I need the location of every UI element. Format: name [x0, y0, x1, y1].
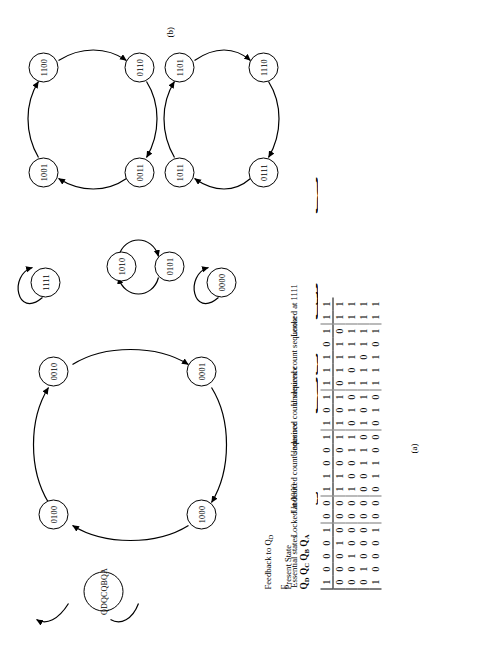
cell-qc: 1	[345, 403, 357, 416]
cell-qc: 1	[345, 337, 357, 350]
cell-qc: 1	[345, 443, 357, 456]
state-node-0001: 0001	[186, 356, 216, 386]
state-node-1101: 1101	[164, 52, 194, 82]
header-feedback: Feedback to QD	[262, 534, 272, 589]
cell-qb: 0	[357, 549, 369, 562]
cell-qc: 0	[345, 496, 357, 510]
cell-qd: 1	[333, 430, 346, 444]
cell-qc: 1	[345, 297, 357, 310]
rotated-sheet: QDQCQBQA 0100 0010 0001 1000 1111 0000 1…	[0, 0, 499, 657]
cell-f: 1	[320, 350, 333, 363]
cell-qa: 0	[369, 536, 381, 549]
cell-f: 1	[320, 482, 333, 496]
cell-f: 0	[320, 536, 333, 549]
cell-qb: 0	[357, 469, 369, 482]
state-node-legend: QDQCQBQA	[83, 571, 123, 611]
cell-qb: 0	[357, 496, 369, 510]
cell-qb: 1	[357, 562, 369, 575]
table-row-qb: 0 1 0 0 0 0 0 0 0 1 1 0 1	[357, 297, 369, 589]
cell-qa: 1	[369, 350, 381, 363]
cell-f: 1	[320, 376, 333, 390]
cell-qb: 0	[357, 350, 369, 363]
cell-qb: 1	[357, 310, 369, 324]
cell-qa: 0	[369, 416, 381, 430]
state-node-1000: 1000	[186, 499, 216, 529]
figure-page: QDQCQBQA 0100 0010 0001 1000 1111 0000 1…	[0, 0, 499, 657]
cell-qc: 0	[345, 363, 357, 376]
cell-qa: 0	[369, 562, 381, 575]
cell-qa: 1	[369, 456, 381, 469]
cell-f: 1	[320, 390, 333, 404]
cell-qd: 1	[333, 310, 346, 324]
cell-qd: 0	[333, 456, 346, 469]
cell-f: 1	[320, 575, 333, 589]
state-node-1011: 1011	[164, 157, 194, 187]
cell-qb: 1	[357, 324, 369, 338]
cell-qb: 0	[357, 403, 369, 416]
cell-qa: 1	[369, 324, 381, 338]
cell-f: 0	[320, 456, 333, 469]
state-node-0110: 0110	[124, 52, 154, 82]
cell-qc: 0	[345, 416, 357, 430]
cell-qa: 1	[369, 523, 381, 537]
state-node-1111: 1111	[30, 267, 60, 297]
cell-f: 0	[320, 562, 333, 575]
state-node-0100: 0100	[38, 499, 68, 529]
cell-f: 1	[320, 469, 333, 482]
cell-qb: 1	[357, 337, 369, 350]
cell-qa: 1	[369, 575, 381, 589]
cell-qa: 1	[369, 403, 381, 416]
cell-qc: 1	[345, 350, 357, 363]
cell-qc: 0	[345, 523, 357, 537]
cell-f: 1	[320, 523, 333, 537]
cell-qa: 1	[369, 363, 381, 376]
state-table-grid: 1 0 0 0 1 0 0 1 1 0 0	[320, 297, 381, 589]
cell-qa: 0	[369, 482, 381, 496]
cell-qc: 0	[345, 509, 357, 523]
state-node-1100: 1100	[28, 52, 58, 82]
cell-qd: 0	[333, 509, 346, 523]
cell-qd: 0	[333, 496, 346, 510]
cell-f: 1	[320, 363, 333, 376]
cell-qa: 0	[369, 443, 381, 456]
cell-qb: 0	[357, 509, 369, 523]
state-node-0000: 0000	[206, 267, 236, 297]
cell-qd: 0	[333, 443, 346, 456]
state-diagram: QDQCQBQA 0100 0010 0001 1000 1111 0000 1…	[6, 9, 256, 649]
state-node-1001: 1001	[28, 157, 58, 187]
cell-qa: 0	[369, 430, 381, 444]
cell-f: 1	[320, 310, 333, 324]
cell-qb: 1	[357, 376, 369, 390]
annotation-block-0: Essential states	[288, 535, 298, 587]
cell-qa: 1	[369, 376, 381, 390]
cell-qc: 1	[345, 324, 357, 338]
state-node-1010: 1010	[106, 251, 136, 281]
cell-f: 1	[320, 430, 333, 444]
state-node-1110: 1110	[248, 52, 278, 82]
cell-qb: 0	[357, 482, 369, 496]
cell-f: 0	[320, 337, 333, 350]
state-node-0111: 0111	[248, 157, 278, 187]
state-table-figure: Feedback to QD F Present State QD QC QB …	[260, 9, 490, 649]
cell-qc: 1	[345, 482, 357, 496]
cell-qa: 0	[369, 509, 381, 523]
cell-qc: 0	[345, 575, 357, 589]
cell-qb: 1	[357, 443, 369, 456]
cell-qa: 0	[369, 390, 381, 404]
cell-qa: 1	[369, 310, 381, 324]
cell-qc: 1	[345, 549, 357, 562]
cell-qd: 1	[333, 416, 346, 430]
cell-qd: 0	[333, 324, 346, 338]
cell-qa: 0	[369, 337, 381, 350]
cell-qb: 0	[357, 523, 369, 537]
cell-qb: 1	[357, 390, 369, 404]
brace-block-4: ⏟	[307, 3, 318, 387]
cell-qc: 1	[345, 310, 357, 324]
cell-qc: 0	[345, 562, 357, 575]
cell-qd: 1	[333, 482, 346, 496]
cell-qa: 1	[369, 297, 381, 310]
cell-qa: 1	[369, 469, 381, 482]
table-row-feedback: 1 0 0 0 1 0 0 1 1 0 0	[320, 297, 333, 589]
cell-qc: 1	[345, 376, 357, 390]
cell-qd: 1	[333, 337, 346, 350]
